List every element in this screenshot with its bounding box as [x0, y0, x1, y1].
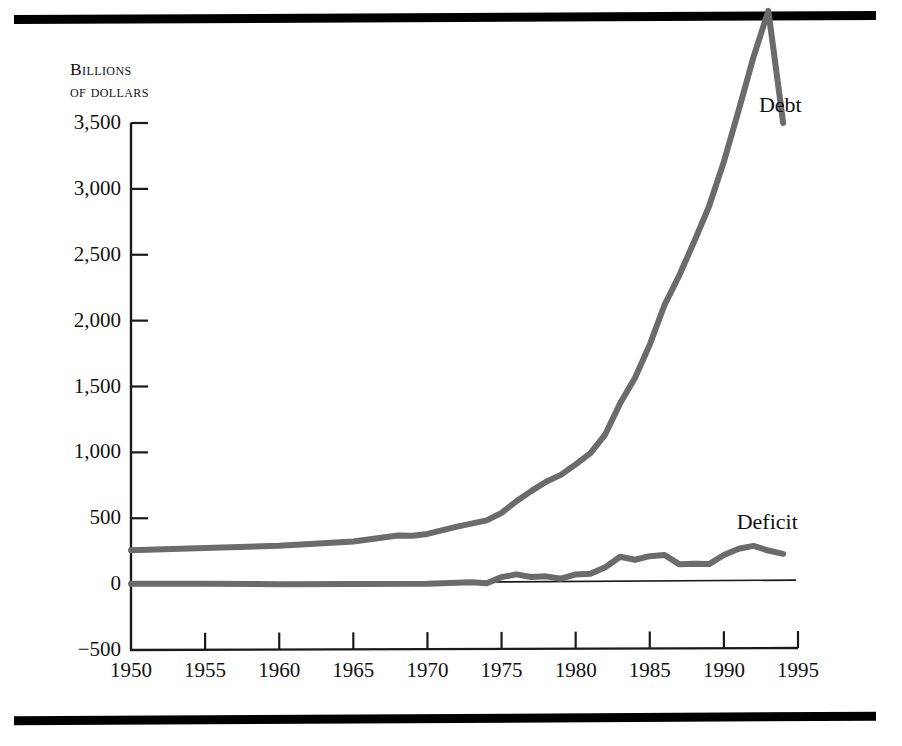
y-tick-label: 500 [35, 507, 121, 528]
x-tick-label: 1985 [615, 660, 685, 681]
x-tick-label: 1970 [392, 660, 462, 681]
y-axis-caption-line-2: of dollars [70, 81, 149, 103]
y-tick-label: 1,000 [35, 441, 121, 462]
y-tick-label: 1,500 [35, 376, 121, 397]
x-tick-label: 1965 [318, 660, 388, 681]
x-tick-label: 1995 [763, 660, 833, 681]
x-tick-label: 1960 [244, 660, 314, 681]
y-tick-label: 0 [35, 573, 121, 594]
y-tick-label: 2,000 [35, 310, 121, 331]
series-label-debt: Debt [759, 94, 802, 116]
y-tick-label: 2,500 [35, 244, 121, 265]
x-tick-label: 1980 [541, 660, 611, 681]
axis-spine [131, 123, 798, 650]
series-line-debt [131, 11, 783, 550]
x-tick-label: 1975 [467, 660, 537, 681]
series-line-deficit [131, 546, 783, 584]
y-tick-label: 3,500 [35, 112, 121, 133]
x-tick-label: 1950 [96, 660, 166, 681]
y-tick-label: −500 [35, 639, 121, 660]
x-tick-label: 1955 [170, 660, 240, 681]
y-axis-caption: Billions of dollars [70, 58, 149, 103]
x-tick-label: 1990 [689, 660, 759, 681]
series-label-deficit: Deficit [737, 511, 798, 533]
y-tick-label: 3,000 [35, 178, 121, 199]
chart-figure: Billions of dollars −50005001,0001,5002,… [0, 0, 902, 746]
y-axis-caption-line-1: Billions [70, 58, 149, 81]
